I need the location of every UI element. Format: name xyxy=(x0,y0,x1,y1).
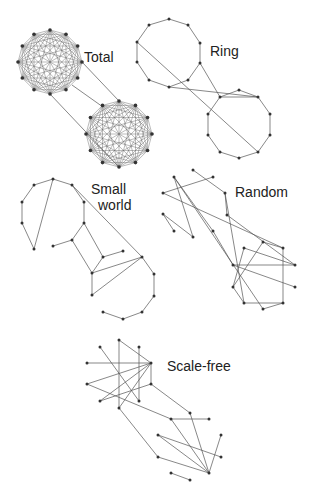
node xyxy=(141,256,144,259)
edge xyxy=(158,435,209,473)
node xyxy=(99,400,102,403)
node xyxy=(282,247,285,250)
edge xyxy=(22,46,50,94)
edge xyxy=(72,185,84,202)
edge xyxy=(163,193,283,248)
label-small-world-line2: world xyxy=(98,198,131,213)
node xyxy=(187,24,190,27)
node xyxy=(118,339,121,342)
edge xyxy=(103,312,123,319)
edge xyxy=(188,63,200,80)
edge xyxy=(244,248,295,265)
edge xyxy=(142,296,154,312)
node xyxy=(89,149,93,153)
node xyxy=(52,245,55,248)
edge xyxy=(18,62,66,90)
edge xyxy=(239,152,258,158)
node xyxy=(91,294,94,297)
node xyxy=(262,308,265,311)
edge xyxy=(174,177,193,237)
edge xyxy=(50,94,119,167)
node xyxy=(76,44,80,48)
edge xyxy=(72,223,84,240)
node xyxy=(168,18,171,21)
node xyxy=(32,32,36,36)
edge xyxy=(158,457,209,473)
small-world-network xyxy=(21,178,156,321)
edge xyxy=(233,265,295,287)
node xyxy=(136,41,139,44)
node xyxy=(117,165,121,169)
edge xyxy=(151,384,190,413)
node xyxy=(150,383,153,386)
node xyxy=(71,184,74,187)
edge xyxy=(34,179,53,185)
node xyxy=(99,346,102,349)
node xyxy=(192,236,195,239)
edge xyxy=(263,242,283,248)
edge xyxy=(158,435,221,457)
node xyxy=(148,79,151,82)
edge xyxy=(22,223,34,249)
label-scale-free: Scale-free xyxy=(167,359,231,374)
node xyxy=(21,222,24,225)
node xyxy=(232,264,235,267)
node xyxy=(136,61,139,64)
node xyxy=(101,161,105,165)
node xyxy=(192,169,195,172)
node xyxy=(199,62,202,65)
node xyxy=(141,311,144,314)
node xyxy=(294,264,297,267)
edge xyxy=(92,257,103,273)
node xyxy=(134,104,138,108)
node xyxy=(86,383,89,386)
node xyxy=(64,88,68,92)
edge xyxy=(53,240,72,246)
node xyxy=(157,456,160,459)
edge xyxy=(22,185,34,202)
node xyxy=(153,273,156,276)
node xyxy=(76,76,80,80)
node xyxy=(83,201,86,204)
label-random: Random xyxy=(235,185,288,200)
node xyxy=(101,104,105,108)
node xyxy=(232,286,235,289)
edge xyxy=(188,25,200,43)
network-graphs xyxy=(0,0,310,496)
edge xyxy=(213,231,233,265)
edge xyxy=(163,214,193,237)
edge xyxy=(84,223,103,257)
node xyxy=(150,132,154,136)
node xyxy=(170,472,173,475)
network-topology-diagram: Total Ring Small world Random Scale-free xyxy=(0,0,310,496)
node xyxy=(224,192,227,195)
node xyxy=(89,116,93,120)
node xyxy=(86,362,89,365)
node xyxy=(52,178,55,181)
edge xyxy=(258,97,270,114)
edge xyxy=(225,193,244,303)
node xyxy=(32,88,36,92)
node xyxy=(102,256,105,259)
label-ring: Ring xyxy=(210,44,239,59)
node xyxy=(48,28,52,32)
edge xyxy=(72,240,92,273)
node xyxy=(20,44,24,48)
edge xyxy=(208,135,220,152)
edge xyxy=(263,303,283,309)
edge xyxy=(209,435,221,473)
edge xyxy=(103,251,123,257)
node xyxy=(212,176,215,179)
node xyxy=(117,99,121,103)
edge xyxy=(100,347,139,401)
node xyxy=(208,418,211,421)
node xyxy=(208,472,211,475)
node xyxy=(173,176,176,179)
node xyxy=(162,192,165,195)
node xyxy=(189,479,192,482)
edge xyxy=(119,408,158,457)
node xyxy=(187,79,190,82)
edge xyxy=(123,312,142,319)
edge xyxy=(137,62,149,80)
node xyxy=(21,201,24,204)
